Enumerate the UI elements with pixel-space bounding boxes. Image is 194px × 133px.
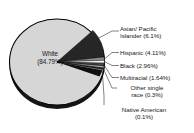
slice-label-black: Black (2.96%) (120, 62, 158, 69)
slice-label-white: White (84.79%) (26, 50, 74, 65)
slice-label-asian-pacific-islander: Asian/ Pacific Islander (6.1%) (120, 25, 192, 39)
slice-label-hispanic: Hispanic (4.11%) (120, 49, 166, 56)
slice-label-native-american: Native American (0.1%) (98, 106, 190, 120)
slice-label-other-single-race: Other single race (0.3%) (118, 84, 176, 98)
pie-chart-figure: White (84.79%) Asian/ Pacific Islander (… (0, 0, 194, 133)
slice-label-other-line1: Other single (131, 84, 164, 91)
slice-label-multiracial: Multiracial (1.64%) (120, 74, 170, 81)
leader-line-other (103, 68, 117, 88)
slice-label-other-line2: race (0.3%) (131, 91, 162, 98)
slice-label-native-line1: Native American (122, 106, 166, 113)
slice-label-asian-line2: Islander (6.1%) (120, 32, 161, 39)
leader-line-asian (97, 31, 119, 39)
leader-line-black (105, 62, 119, 66)
slice-label-asian-line1: Asian/ Pacific (120, 25, 156, 32)
slice-label-white-name: White (42, 50, 58, 57)
slice-label-native-line2: (0.1%) (135, 113, 153, 120)
slice-label-white-value: (84.79%) (37, 58, 63, 65)
leader-line-hispanic (105, 53, 119, 59)
